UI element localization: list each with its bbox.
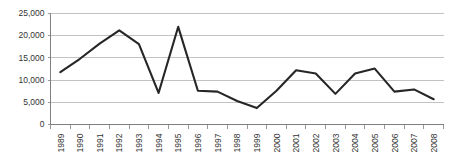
x-tick-label: 1995 [173, 133, 183, 152]
x-tick-label: 2006 [390, 133, 400, 152]
x-tick-label: 1991 [95, 133, 105, 152]
x-tick-label: 1999 [252, 133, 262, 152]
x-tick-label: 1993 [134, 133, 144, 152]
y-tick-label: 25,000 [19, 8, 45, 18]
x-tick-label: 1998 [232, 133, 242, 152]
y-tick-label: 15,000 [19, 53, 45, 63]
data-series-line [60, 27, 433, 108]
x-tick-label: 1990 [75, 133, 85, 152]
x-tick-label: 2002 [311, 133, 321, 152]
y-tick-label: 10,000 [19, 75, 45, 85]
x-tick-label: 2000 [272, 133, 282, 152]
x-tick-label: 2003 [331, 133, 341, 152]
y-tick-label: 20,000 [19, 30, 45, 40]
x-tick-label: 1996 [193, 133, 203, 152]
axes-group [48, 14, 444, 129]
line-chart: 05,00010,00015,00020,00025,000 198919901… [0, 0, 456, 166]
chart-canvas: 05,00010,00015,00020,00025,000 198919901… [0, 0, 456, 166]
x-tick-label: 2008 [429, 133, 439, 152]
x-tick-label: 1989 [56, 133, 66, 152]
gridlines-group [51, 14, 444, 125]
x-tick-label: 2005 [370, 133, 380, 152]
y-tick-label: 0 [40, 119, 45, 129]
x-tick-label: 2007 [409, 133, 419, 152]
ytick-labels-group: 05,00010,00015,00020,00025,000 [19, 8, 45, 129]
x-tick-label: 1997 [213, 133, 223, 152]
x-tick-label: 1992 [114, 133, 124, 152]
data-series-group [60, 27, 433, 108]
xtick-labels-group: 1989199019911992199319941995199619971998… [56, 133, 439, 152]
x-tick-label: 1994 [154, 133, 164, 152]
y-tick-label: 5,000 [23, 97, 45, 107]
x-tick-label: 2001 [291, 133, 301, 152]
x-tick-label: 2004 [350, 133, 360, 152]
